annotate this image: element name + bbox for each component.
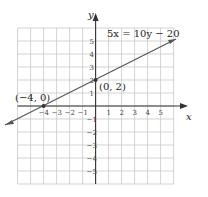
y-tick-label: −1 xyxy=(87,116,97,124)
point-a-label: (−4, 0) xyxy=(15,92,50,103)
y-tick-label: −4 xyxy=(87,155,98,163)
x-tick-label: 2 xyxy=(120,109,124,117)
point-a xyxy=(42,104,46,108)
y-tick-label: 3 xyxy=(90,64,94,72)
y-axis-label: y xyxy=(87,9,94,20)
y-tick-label: −5 xyxy=(87,168,97,176)
equation-label: 5x = 10y − 20 xyxy=(107,28,180,39)
point-b-label: (0, 2) xyxy=(99,81,126,92)
line-arrow-right-icon xyxy=(168,39,176,44)
y-tick-label: −3 xyxy=(87,142,97,150)
point-b xyxy=(94,78,98,82)
x-tick-label: 3 xyxy=(133,109,137,117)
x-axis-arrow-icon xyxy=(180,103,188,109)
x-tick-label: −3 xyxy=(52,109,62,117)
graph: −4−3−2−11234554321−1−2−3−4−5 y x 5x = 10… xyxy=(0,0,208,197)
y-tick-label: 1 xyxy=(90,90,94,98)
x-tick-label: −4 xyxy=(39,109,50,117)
x-tick-label: 1 xyxy=(107,109,111,117)
x-tick-label: 5 xyxy=(159,109,163,117)
y-tick-label: −2 xyxy=(87,129,97,137)
y-tick-label: 5 xyxy=(90,38,94,46)
y-tick-label: 4 xyxy=(90,51,95,59)
x-axis-label: x xyxy=(186,111,192,122)
x-tick-label: 4 xyxy=(146,109,151,117)
x-tick-label: −2 xyxy=(65,109,75,117)
